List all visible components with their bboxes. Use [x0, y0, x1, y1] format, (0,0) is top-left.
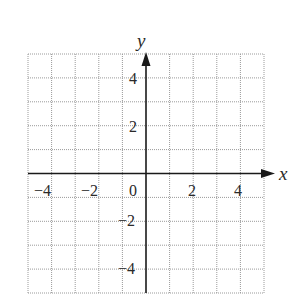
y-axis-label: y: [135, 30, 146, 51]
x-axis-label: x: [278, 163, 288, 184]
x-tick-label: −4: [34, 182, 51, 199]
y-tick-label: −2: [118, 212, 135, 229]
x-tick-label: −2: [81, 182, 98, 199]
y-tick-label: 4: [129, 70, 137, 87]
x-tick-labels: −4 −2 0 2 4: [34, 182, 242, 199]
origin-label: 0: [129, 182, 137, 199]
x-tick-label: 4: [234, 182, 242, 199]
y-tick-label: −4: [118, 260, 135, 277]
y-axis: [142, 52, 151, 293]
coordinate-plane: x y −4 −2 0 2 4 4 2 −2 −4: [0, 0, 300, 298]
x-axis-arrow-icon: [261, 169, 275, 178]
x-axis: [28, 169, 275, 178]
x-tick-label: 2: [188, 182, 196, 199]
y-tick-label: 2: [129, 118, 137, 135]
